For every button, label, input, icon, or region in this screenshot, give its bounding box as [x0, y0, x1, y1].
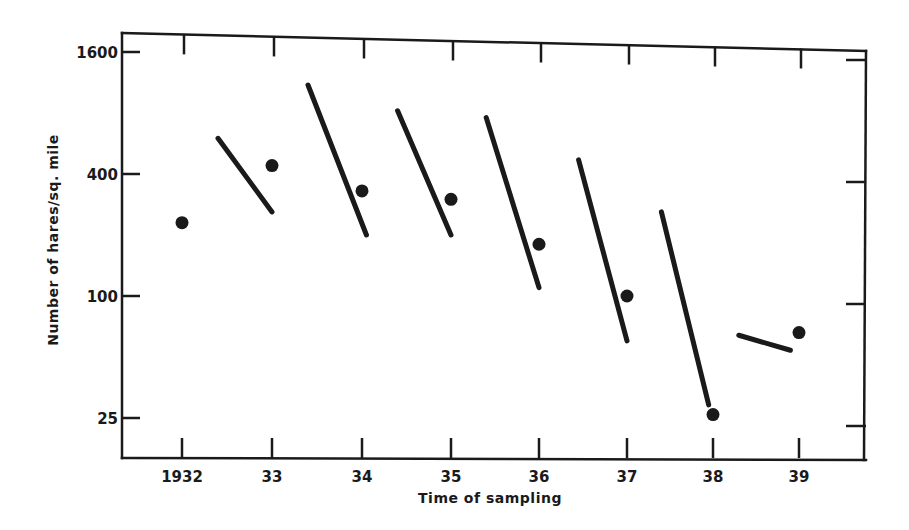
x-axis-bottom: [122, 458, 866, 460]
decline-segment: [661, 212, 708, 405]
y-axis-title: Number of hares/sq. mile: [45, 134, 61, 346]
right-border: [864, 51, 866, 460]
x-tick-label: 1932: [161, 468, 203, 486]
x-tick-label: 37: [617, 468, 638, 486]
data-point: [176, 216, 189, 229]
data-point: [533, 238, 546, 251]
data-point: [266, 159, 279, 172]
x-ticks: [182, 438, 799, 458]
plot-frame: [122, 33, 866, 460]
data-point: [356, 184, 369, 197]
decline-segment: [218, 138, 272, 212]
x-tick-label: 38: [703, 468, 724, 486]
y-tick-label: 1600: [76, 44, 118, 62]
y-ticks: [122, 52, 140, 418]
decline-segment: [308, 85, 366, 235]
decline-segments: [218, 85, 790, 405]
data-point: [445, 193, 458, 206]
y-tick-label: 25: [97, 410, 118, 428]
x-tick-label: 34: [352, 468, 373, 486]
y-tick-labels: 160040010025: [76, 44, 118, 428]
decline-segment: [739, 335, 791, 350]
data-point: [707, 408, 720, 421]
x-ticks-top: [184, 34, 801, 68]
x-tick-label: 36: [529, 468, 550, 486]
x-tick-label: 33: [262, 468, 283, 486]
y-tick-label: 400: [87, 166, 118, 184]
x-axis-title: Time of sampling: [418, 490, 562, 506]
data-point: [621, 290, 634, 303]
top-border: [122, 33, 866, 51]
decline-segment: [486, 118, 539, 288]
y-tick-label: 100: [87, 288, 118, 306]
data-points: [176, 159, 806, 421]
data-point: [793, 326, 806, 339]
y-ticks-right: [846, 60, 866, 426]
decline-segment: [398, 111, 451, 235]
x-tick-labels: 193233343536373839: [161, 468, 809, 486]
chart: 160040010025 193233343536373839 Time of …: [0, 0, 909, 530]
x-tick-label: 35: [441, 468, 462, 486]
x-tick-label: 39: [789, 468, 810, 486]
decline-segment: [579, 160, 627, 341]
